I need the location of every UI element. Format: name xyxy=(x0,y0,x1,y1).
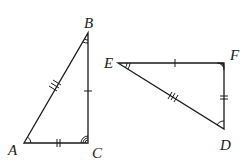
vertex-label-e: E xyxy=(103,55,113,71)
angle-c-triple-arc xyxy=(81,136,88,143)
triangle-abc-outline xyxy=(24,33,88,143)
vertex-label-a: A xyxy=(7,142,18,158)
triangle-abc: B A C xyxy=(7,15,103,161)
triangle-efd-outline xyxy=(118,63,224,129)
angle-f-triple-arc xyxy=(217,63,224,70)
angle-b-arc xyxy=(83,42,88,43)
angle-a-single-arc xyxy=(28,137,32,143)
vertex-label-f: F xyxy=(229,47,240,63)
side-ed-triple-tick xyxy=(168,92,178,102)
triangle-efd: E F D xyxy=(103,47,240,153)
congruent-triangles-diagram: B A C E xyxy=(0,0,243,165)
vertex-label-b: B xyxy=(84,15,93,31)
angle-d-single-arc xyxy=(217,121,224,125)
vertex-label-c: C xyxy=(92,145,103,161)
vertex-label-d: D xyxy=(219,137,231,153)
